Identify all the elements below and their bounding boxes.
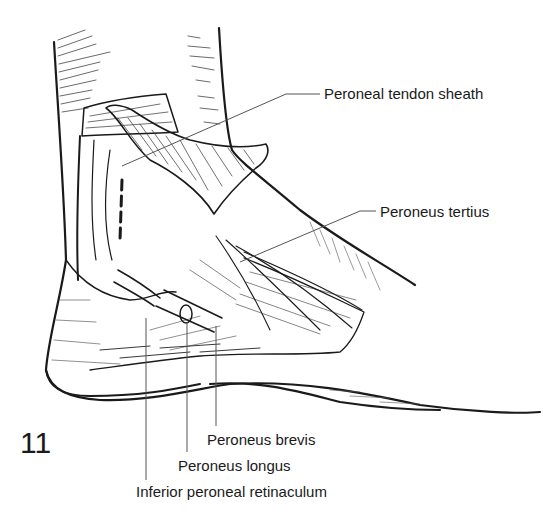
label-peroneus-brevis: Peroneus brevis [207, 432, 315, 447]
label-peroneal-tendon-sheath: Peroneal tendon sheath [324, 86, 483, 101]
figure-number: 11 [20, 428, 51, 458]
label-inferior-peroneal-retinaculum: Inferior peroneal retinaculum [136, 484, 327, 499]
label-peroneus-longus: Peroneus longus [178, 458, 291, 473]
label-peroneus-tertius: Peroneus tertius [380, 204, 489, 219]
anatomical-illustration: 11 Peroneal tendon sheath Peroneus terti… [0, 0, 543, 518]
